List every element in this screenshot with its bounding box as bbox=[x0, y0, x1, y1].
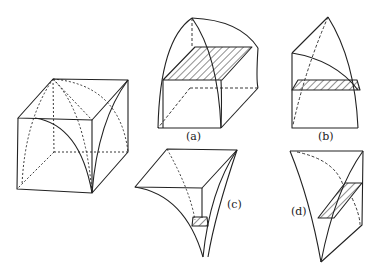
figure-c bbox=[135, 149, 237, 257]
label-a: (a) bbox=[186, 130, 201, 143]
label-b: (b) bbox=[318, 130, 334, 143]
figure-b bbox=[292, 17, 360, 128]
diagram-canvas: (a) (b) (c) (d) bbox=[0, 0, 379, 275]
label-c: (c) bbox=[227, 198, 242, 211]
cube-figure bbox=[17, 79, 128, 193]
figure-a bbox=[158, 18, 258, 128]
label-d: (d) bbox=[291, 205, 307, 218]
